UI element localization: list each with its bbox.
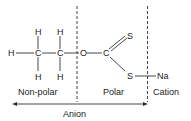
atom-s-double: S (127, 31, 133, 41)
label-polar: Polar (103, 87, 124, 97)
atom-s-single: S (127, 71, 133, 81)
atom-h-c2-bottom: H (57, 72, 64, 82)
atom-h-c2-top: H (57, 27, 64, 37)
atom-h-c1-bottom: H (35, 72, 42, 82)
atom-o: O (80, 48, 87, 58)
atom-c1: C (35, 48, 42, 58)
xanthate-diagram: H C C H H H H O C S S Na Non-polar Polar… (0, 0, 191, 121)
atom-c3: C (103, 48, 110, 58)
atom-c2: C (57, 48, 64, 58)
arrow-right-head (143, 102, 148, 106)
label-nonpolar: Non-polar (18, 87, 58, 97)
arrow-left-head (12, 102, 17, 106)
atom-h-c1-top: H (35, 27, 42, 37)
atom-h-left: H (8, 48, 15, 58)
label-cation: Cation (153, 87, 179, 97)
atom-na: Na (157, 71, 169, 81)
label-anion: Anion (63, 109, 86, 119)
